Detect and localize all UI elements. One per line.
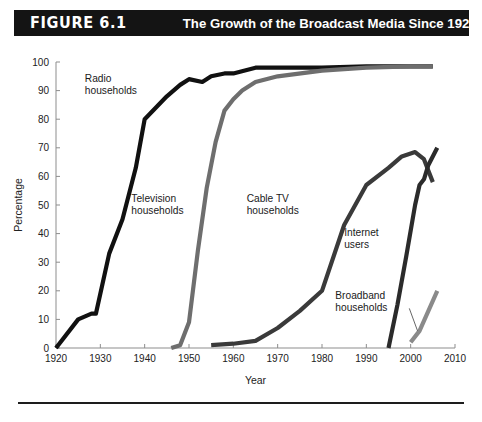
series-line-broadband-households xyxy=(411,291,438,342)
series-label-television-households: Televisionhouseholds xyxy=(131,193,183,216)
y-tick-label: 100 xyxy=(32,57,49,68)
x-tick-label: 2000 xyxy=(400,353,423,364)
x-tick-label: 1950 xyxy=(178,353,201,364)
y-tick-label: 50 xyxy=(38,200,50,211)
series-line-cable-tv-households xyxy=(211,152,433,345)
figure-title: The Growth of the Broadcast Media Since … xyxy=(141,16,477,31)
y-tick-label: 60 xyxy=(38,171,50,182)
x-tick-label: 1930 xyxy=(89,353,112,364)
series-label-line: Television xyxy=(131,193,176,204)
line-chart: 0102030405060708090100192019301940195019… xyxy=(0,40,482,390)
x-tick-label: 1960 xyxy=(222,353,245,364)
y-axis-title: Percentage xyxy=(12,178,24,232)
y-tick-label: 80 xyxy=(38,114,50,125)
y-tick-label: 20 xyxy=(38,285,50,296)
x-tick-label: 1980 xyxy=(311,353,334,364)
series-label-broadband-households: Broadbandhouseholds xyxy=(335,290,387,313)
series-label-line: Broadband xyxy=(335,290,385,301)
series-label-cable-tv-households: Cable TVhouseholds xyxy=(247,193,299,216)
x-tick-label: 1970 xyxy=(267,353,290,364)
y-tick-label: 30 xyxy=(38,257,50,268)
series-label-line: users xyxy=(344,239,369,250)
chart-container: 0102030405060708090100192019301940195019… xyxy=(0,40,482,390)
x-axis-title: Year xyxy=(245,374,267,386)
series-label-line: households xyxy=(131,205,183,216)
series-label-line: households xyxy=(335,302,387,313)
broadband-leader-line xyxy=(409,308,417,330)
figure-number-badge: FIGURE 6.1 xyxy=(14,15,141,32)
bottom-rule-divider xyxy=(18,402,464,404)
figure-header-bar: FIGURE 6.1 The Growth of the Broadcast M… xyxy=(14,10,469,36)
series-label-radio-households: Radiohouseholds xyxy=(85,73,137,96)
x-tick-label: 1990 xyxy=(355,353,378,364)
series-label-internet-users: Internetusers xyxy=(344,227,379,250)
y-tick-label: 90 xyxy=(38,85,50,96)
chart-series-labels: RadiohouseholdsTelevisionhouseholdsCable… xyxy=(85,73,418,331)
series-label-line: households xyxy=(85,85,137,96)
series-label-line: Internet xyxy=(344,227,379,238)
series-label-line: households xyxy=(247,205,299,216)
x-tick-label: 1940 xyxy=(134,353,157,364)
x-tick-label: 2010 xyxy=(444,353,467,364)
y-tick-label: 40 xyxy=(38,228,50,239)
x-tick-label: 1920 xyxy=(45,353,68,364)
y-tick-label: 70 xyxy=(38,142,50,153)
series-label-line: Cable TV xyxy=(247,193,289,204)
y-tick-label: 0 xyxy=(43,343,49,354)
series-label-line: Radio xyxy=(85,73,112,84)
y-tick-label: 10 xyxy=(38,314,50,325)
series-line-television-households xyxy=(171,66,433,348)
